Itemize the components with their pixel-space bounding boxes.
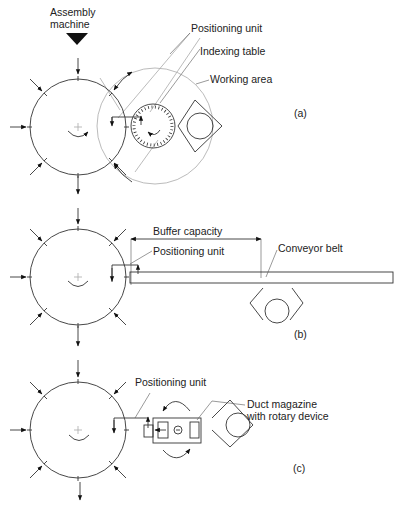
label-indexing-table: Indexing table [200, 45, 266, 57]
header-label-line1: Assembly [50, 6, 96, 18]
label-positioning-unit-c: Positioning unit [135, 376, 206, 388]
working-area-circle [97, 68, 213, 184]
label-positioning-unit-a: Positioning unit [191, 22, 262, 34]
panel-b: Buffer capacity Positioning unit Conveyo… [10, 208, 393, 340]
indexing-table [131, 104, 175, 148]
feeder-bowl-b [265, 299, 289, 323]
panel-a: Positioning unit Indexing table Working … [10, 22, 307, 184]
header-label-line2: machine [50, 18, 90, 30]
feeder-diamond [178, 100, 222, 152]
label-duct-magazine-1: Duct magazine [247, 398, 317, 410]
assembly-machine-diagram: Assembly machine [0, 0, 401, 505]
label-duct-magazine-2: with rotary device [246, 410, 329, 422]
feeder-bowl [187, 113, 213, 139]
label-positioning-unit-b: Positioning unit [153, 245, 224, 257]
machine-pointer-icon [66, 33, 88, 45]
caption-c: (c) [293, 462, 305, 474]
conveyor-belt [130, 272, 393, 283]
caption-b: (b) [294, 328, 307, 340]
label-buffer-capacity: Buffer capacity [153, 225, 223, 237]
panel-c: Positioning unit Duct magazine with rota… [10, 360, 329, 500]
label-conveyor-belt: Conveyor belt [278, 242, 343, 254]
caption-a: (a) [294, 107, 307, 119]
label-working-area: Working area [210, 73, 272, 85]
